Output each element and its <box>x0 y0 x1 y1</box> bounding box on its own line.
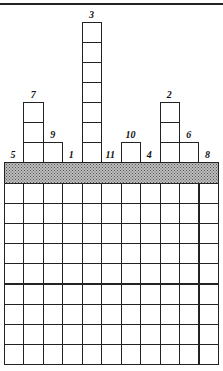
grid-cell[interactable] <box>43 284 63 305</box>
grid-cell[interactable] <box>43 324 63 345</box>
stack-cell[interactable] <box>160 142 180 163</box>
grid-cell[interactable] <box>4 324 24 345</box>
grid-cell[interactable] <box>101 183 121 204</box>
grid-cell[interactable] <box>179 243 199 264</box>
grid-cell[interactable] <box>43 183 63 204</box>
grid-cell[interactable] <box>101 243 121 264</box>
grid-cell[interactable] <box>179 183 199 204</box>
grid-cell[interactable] <box>121 324 141 345</box>
grid-cell[interactable] <box>4 203 24 224</box>
grid-cell[interactable] <box>62 203 82 224</box>
grid-cell[interactable] <box>101 324 121 345</box>
grid-cell[interactable] <box>82 344 102 365</box>
grid-cell[interactable] <box>62 304 82 325</box>
grid-cell[interactable] <box>101 203 121 224</box>
grid-cell[interactable] <box>121 304 141 325</box>
grid-cell[interactable] <box>121 223 141 244</box>
grid-cell[interactable] <box>199 203 219 224</box>
stack-cell[interactable] <box>160 102 180 123</box>
grid-cell[interactable] <box>199 324 219 345</box>
grid-cell[interactable] <box>199 263 219 284</box>
grid-cell[interactable] <box>43 203 63 224</box>
grid-cell[interactable] <box>140 263 160 284</box>
grid-cell[interactable] <box>43 243 63 264</box>
grid-cell[interactable] <box>62 284 82 305</box>
grid-cell[interactable] <box>140 324 160 345</box>
grid-cell[interactable] <box>4 243 24 264</box>
grid-cell[interactable] <box>4 304 24 325</box>
grid-cell[interactable] <box>4 344 24 365</box>
grid-cell[interactable] <box>160 284 180 305</box>
stack-cell[interactable] <box>82 62 102 83</box>
grid-cell[interactable] <box>43 344 63 365</box>
grid-cell[interactable] <box>199 304 219 325</box>
grid-cell[interactable] <box>140 284 160 305</box>
grid-cell[interactable] <box>140 243 160 264</box>
grid-cell[interactable] <box>62 263 82 284</box>
grid-cell[interactable] <box>4 223 24 244</box>
grid-cell[interactable] <box>140 223 160 244</box>
grid-cell[interactable] <box>179 203 199 224</box>
grid-cell[interactable] <box>179 223 199 244</box>
grid-cell[interactable] <box>160 203 180 224</box>
grid-cell[interactable] <box>121 183 141 204</box>
grid-cell[interactable] <box>160 344 180 365</box>
grid-cell[interactable] <box>23 284 43 305</box>
grid-cell[interactable] <box>101 304 121 325</box>
grid-cell[interactable] <box>82 304 102 325</box>
grid-cell[interactable] <box>140 304 160 325</box>
grid-cell[interactable] <box>62 324 82 345</box>
stack-cell[interactable] <box>23 142 43 163</box>
grid-cell[interactable] <box>121 344 141 365</box>
grid-cell[interactable] <box>160 243 180 264</box>
stack-cell[interactable] <box>82 42 102 63</box>
grid-cell[interactable] <box>23 223 43 244</box>
grid-cell[interactable] <box>23 183 43 204</box>
grid-cell[interactable] <box>140 203 160 224</box>
grid-cell[interactable] <box>121 203 141 224</box>
grid-cell[interactable] <box>62 183 82 204</box>
grid-cell[interactable] <box>23 324 43 345</box>
grid-cell[interactable] <box>82 243 102 264</box>
stack-cell[interactable] <box>82 102 102 123</box>
grid-cell[interactable] <box>101 263 121 284</box>
grid-cell[interactable] <box>179 263 199 284</box>
stack-cell[interactable] <box>23 102 43 123</box>
grid-cell[interactable] <box>160 223 180 244</box>
grid-cell[interactable] <box>23 344 43 365</box>
grid-cell[interactable] <box>62 344 82 365</box>
stack-cell[interactable] <box>82 82 102 103</box>
grid-cell[interactable] <box>82 183 102 204</box>
grid-cell[interactable] <box>199 183 219 204</box>
grid-cell[interactable] <box>199 243 219 264</box>
grid-cell[interactable] <box>23 304 43 325</box>
grid-cell[interactable] <box>82 284 102 305</box>
grid-cell[interactable] <box>199 344 219 365</box>
grid-cell[interactable] <box>23 243 43 264</box>
grid-cell[interactable] <box>43 263 63 284</box>
grid-cell[interactable] <box>82 263 102 284</box>
grid-cell[interactable] <box>179 344 199 365</box>
grid-cell[interactable] <box>23 203 43 224</box>
grid-cell[interactable] <box>160 263 180 284</box>
grid-cell[interactable] <box>179 284 199 305</box>
grid-cell[interactable] <box>4 263 24 284</box>
grid-cell[interactable] <box>140 344 160 365</box>
stack-cell[interactable] <box>82 122 102 143</box>
grid-cell[interactable] <box>179 324 199 345</box>
grid-cell[interactable] <box>199 223 219 244</box>
grid-cell[interactable] <box>4 183 24 204</box>
grid-cell[interactable] <box>121 243 141 264</box>
grid-cell[interactable] <box>101 223 121 244</box>
grid-cell[interactable] <box>101 284 121 305</box>
grid-cell[interactable] <box>23 263 43 284</box>
grid-cell[interactable] <box>179 304 199 325</box>
stack-cell[interactable] <box>82 22 102 43</box>
grid-cell[interactable] <box>140 183 160 204</box>
grid-cell[interactable] <box>101 344 121 365</box>
grid-cell[interactable] <box>199 284 219 305</box>
grid-cell[interactable] <box>43 223 63 244</box>
grid-cell[interactable] <box>4 284 24 305</box>
grid-cell[interactable] <box>62 243 82 264</box>
grid-cell[interactable] <box>121 263 141 284</box>
